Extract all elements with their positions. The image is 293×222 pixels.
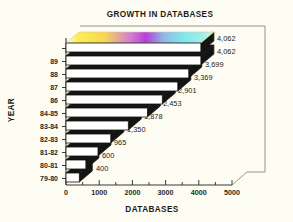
y-category-label: 83-84 [40, 123, 58, 130]
y-category-label: 84-85 [40, 110, 58, 117]
x-tick-label: 4000 [191, 188, 207, 197]
rainbow-gradient-top-face [66, 32, 214, 43]
bar-value-label: 600 [102, 151, 114, 160]
x-axis-title: DATABASES [125, 205, 178, 214]
y-category-label: 88 [50, 71, 58, 78]
y-category-label: 81-82 [40, 149, 58, 156]
bar-value-label-top: 4,062 [217, 34, 236, 43]
chart-title: GROWTH IN DATABASES [107, 10, 214, 19]
bar-value-label: 965 [114, 138, 126, 147]
y-category-label: 89 [50, 58, 58, 65]
x-tick-label: 2000 [124, 188, 140, 197]
bar-value-label: 400 [96, 164, 108, 173]
y-category-label: 79-80 [40, 175, 58, 182]
y-category-label: 87 [50, 84, 58, 91]
x-tick-label: 1000 [91, 188, 107, 197]
bar-value-label: 3,369 [194, 73, 213, 82]
x-tick-label: 0 [64, 188, 68, 197]
growth-in-databases-chart: GROWTH IN DATABASES [0, 0, 293, 222]
y-axis-title: YEAR [7, 98, 16, 122]
y-category-label: 80-81 [40, 162, 58, 169]
bar-value-label: 3,699 [205, 60, 224, 69]
x-tick-label: 5000 [224, 188, 240, 197]
bar-value-label: 4,062 [217, 47, 236, 56]
bar-group-highlighted [66, 32, 214, 52]
y-category-label: 86 [50, 97, 58, 104]
x-tick-label: 3000 [158, 188, 174, 197]
chart-container: GROWTH IN DATABASES [0, 0, 293, 222]
y-category-label: 82-83 [40, 136, 58, 143]
